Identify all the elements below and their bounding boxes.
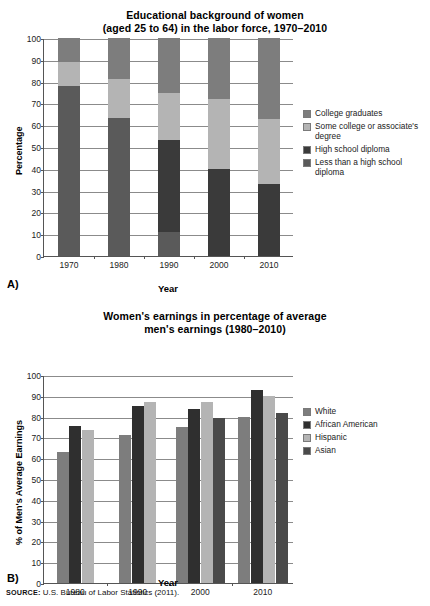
chart-a-bar-segment[interactable] [108,118,130,256]
chart-a-legend-swatch-icon [303,123,311,131]
chart-b-y-tick-mark [41,459,44,460]
chart-b-bar[interactable] [132,406,144,583]
chart-b-legend-item[interactable]: African American [303,419,427,429]
chart-a-bar-segment[interactable] [158,38,180,93]
chart-a-y-tick-mark [41,126,44,127]
chart-a-y-tick-mark [41,257,44,258]
chart-a-bar-segment[interactable] [158,140,180,232]
source-prefix: SOURCE: [6,588,41,597]
chart-a-y-tick-label: 70 [32,99,41,109]
chart-b-bar[interactable] [251,390,263,583]
chart-a-legend-label: High school diploma [315,144,390,154]
chart-a-bar-segment[interactable] [58,62,80,86]
chart-a-legend-swatch-icon [303,110,311,118]
chart-a-y-tick-label: 90 [32,56,41,66]
chart-a-bar-segment[interactable] [258,119,280,184]
chart-a-bar[interactable] [158,38,180,256]
chart-b-y-tick-label: 80 [32,413,41,423]
chart-b-y-tick-label: 40 [32,496,41,506]
chart-a-y-tick-mark [41,39,44,40]
chart-a-bar-segment[interactable] [258,184,280,256]
chart-a-legend-label: Less than a high school diploma [315,157,427,177]
chart-a-x-tick-mark [244,256,245,259]
chart-a-y-tick-label: 50 [32,143,41,153]
chart-b-legend-item[interactable]: Asian [303,445,427,455]
chart-b-bar[interactable] [201,402,213,583]
chart-a-bar-segment[interactable] [58,38,80,62]
chart-a-y-tick-mark [41,83,44,84]
chart-b-bar[interactable] [263,396,275,583]
chart-b-y-tick-label: 100 [27,371,41,381]
chart-b-y-tick-mark [41,438,44,439]
chart-a-legend-label: College graduates [315,108,382,118]
chart-b-y-tick-mark [41,376,44,377]
chart-b-legend-swatch-icon [303,434,311,442]
chart-a-y-tick-label: 80 [32,78,41,88]
chart-a-legend-item[interactable]: High school diploma [303,144,427,154]
chart-a-bar-segment[interactable] [158,93,180,141]
chart-a-y-tick-mark [41,104,44,105]
chart-b-x-tick-label: 2010 [253,587,272,597]
chart-a-legend-item[interactable]: College graduates [303,108,427,118]
chart-a-y-tick-mark [41,61,44,62]
chart-a-bar[interactable] [208,38,230,256]
chart-a-x-tick-label: 2010 [260,260,279,270]
chart-a-bar-segment[interactable] [208,169,230,256]
chart-a-x-tick-mark [144,256,145,259]
chart-a-y-tick-mark [41,148,44,149]
chart-b-bar[interactable] [82,430,94,583]
chart-a-bar[interactable] [108,38,130,256]
chart-a-legend-label: Some college or associate's degree [315,121,427,141]
chart-b-y-tick-label: 50 [32,475,41,485]
chart-a-bar-segment[interactable] [108,38,130,79]
chart-a-y-tick-mark [41,235,44,236]
chart-b-bar[interactable] [57,452,69,583]
chart-a-legend: College graduatesSome college or associa… [303,108,427,180]
chart-a-legend-swatch-icon [303,146,311,154]
chart-b-bar[interactable] [276,413,288,583]
chart-a-panel-label: A) [7,278,19,290]
chart-b-bar[interactable] [188,409,200,583]
chart-a-bar-segment[interactable] [158,232,180,256]
chart-a-bar-segment[interactable] [208,99,230,169]
chart-b-bar[interactable] [144,402,156,583]
chart-b-bar[interactable] [69,426,81,583]
chart-a-bar-segment[interactable] [108,79,130,117]
chart-a-y-tick-mark [41,170,44,171]
chart-a-bar-segment[interactable] [258,38,280,119]
chart-b-bar[interactable] [176,427,188,583]
chart-b-legend-label: Asian [315,445,336,455]
chart-b-legend-swatch-icon [303,447,311,455]
chart-b-title-line1: Women's earnings in percentage of averag… [0,310,430,323]
chart-b-bar[interactable] [119,435,131,583]
source-text: U.S. Bureau of Labor Statistics (2011). [43,588,179,597]
chart-a-bar[interactable] [58,38,80,256]
chart-b-bar[interactable] [213,418,225,583]
chart-a-bar-segment[interactable] [58,86,80,256]
chart-a-title-line1: Educational background of women [0,9,430,22]
chart-a-bar[interactable] [258,38,280,256]
chart-b-legend-item[interactable]: Hispanic [303,432,427,442]
chart-a-y-tick-label: 100 [27,34,41,44]
chart-b-y-tick-mark [41,397,44,398]
chart-b-title-line2: men's earnings (1980–2010) [0,323,430,336]
chart-b-bar[interactable] [238,417,250,583]
chart-b-legend-item[interactable]: White [303,406,427,416]
chart-a-y-tick-label: 40 [32,165,41,175]
chart-b-legend-label: Hispanic [315,432,347,442]
chart-a-legend-item[interactable]: Less than a high school diploma [303,157,427,177]
chart-a-y-tick-label: 0 [36,252,41,262]
chart-b-y-tick-label: 90 [32,392,41,402]
chart-a-x-tick-label: 1990 [160,260,179,270]
chart-b-plot: 01020304050607080901001980199020002010 [43,376,293,584]
chart-a-legend-item[interactable]: Some college or associate's degree [303,121,427,141]
chart-b-legend-label: African American [315,419,378,429]
chart-a-x-tick-mark [194,256,195,259]
chart-a-x-tick-label: 1970 [60,260,79,270]
chart-b-panel-label: B) [7,572,19,584]
chart-a-bar-segment[interactable] [208,38,230,99]
chart-a-x-tick-mark [94,256,95,259]
chart-a-plot: 0102030405060708090100197019801990200020… [43,39,293,257]
chart-a-y-tick-mark [41,213,44,214]
chart-a-y-tick-label: 30 [32,187,41,197]
